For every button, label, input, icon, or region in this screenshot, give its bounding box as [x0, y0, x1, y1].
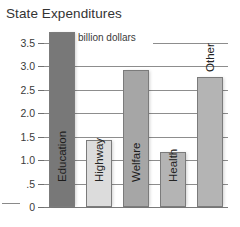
bar-label-education: Education	[56, 131, 68, 182]
y-axis-tick-mark	[38, 160, 44, 161]
y-axis-tick-label: 3.0	[20, 60, 35, 72]
y-axis-tick-mark	[38, 207, 44, 208]
state-expenditures-bar-chart: State Expenditures billion dollars 0.51.…	[0, 0, 240, 227]
bar-label-other: Other	[204, 43, 216, 72]
y-axis-tick-label: 1.0	[20, 154, 35, 166]
bar-label-welfare: Welfare	[130, 143, 142, 182]
y-axis-tick-label: .5	[26, 178, 35, 190]
bar-label-highway: Highway	[93, 138, 105, 182]
bar-label-health: Health	[167, 149, 179, 182]
y-axis-tick-label: 3.5	[20, 37, 35, 49]
y-axis-tick-mark	[38, 184, 44, 185]
left-margin-dash	[2, 203, 20, 204]
y-axis-tick-label: 2.0	[20, 107, 35, 119]
bar-highway: Highway	[86, 140, 112, 207]
y-axis-tick-label: 2.5	[20, 84, 35, 96]
gridline	[153, 43, 228, 44]
bar-welfare: Welfare	[123, 70, 149, 207]
bar-other: Other	[197, 77, 223, 207]
y-axis-tick-mark	[38, 66, 44, 67]
y-axis-tick-mark	[38, 90, 44, 91]
y-axis-tick-mark	[38, 113, 44, 114]
y-axis-tick-label: 1.5	[20, 131, 35, 143]
chart-title: State Expenditures	[6, 6, 122, 21]
y-axis-tick-label: 0	[29, 201, 35, 213]
y-axis-tick-mark	[38, 137, 44, 138]
axis-baseline	[43, 207, 228, 208]
bar-education: Education	[49, 32, 75, 207]
y-axis-tick-mark	[38, 43, 44, 44]
plot-area: 0.51.01.52.02.53.03.5 EducationHighwayWe…	[43, 24, 228, 207]
bar-health: Health	[160, 152, 186, 207]
